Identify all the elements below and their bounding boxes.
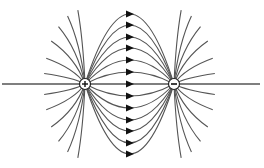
outer-field-line xyxy=(174,74,215,84)
arrow-icon xyxy=(126,151,134,158)
arrow-icon xyxy=(126,11,134,18)
field-line xyxy=(85,84,174,143)
outer-field-line xyxy=(174,84,215,94)
arrow-icon xyxy=(126,117,134,124)
arrow-icon xyxy=(126,81,134,88)
arrow-icon xyxy=(126,93,134,100)
arrow-icon xyxy=(126,105,134,112)
arrow-icon xyxy=(126,128,134,135)
arrow-icon xyxy=(126,22,134,29)
arrow-icon xyxy=(126,140,134,147)
arrow-icon xyxy=(126,45,134,52)
outer-field-line xyxy=(44,74,85,84)
arrow-icon xyxy=(126,69,134,76)
arrow-icon xyxy=(126,34,134,41)
field-lines-canvas xyxy=(0,0,264,168)
outer-field-line xyxy=(44,84,85,94)
field-line xyxy=(85,25,174,84)
dipole-field-diagram xyxy=(0,0,264,168)
arrow-icon xyxy=(126,57,134,64)
